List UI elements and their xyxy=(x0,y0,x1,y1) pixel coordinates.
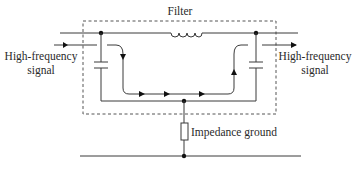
current-arrow-right-icon xyxy=(164,91,170,97)
input-signal-label-line2: signal xyxy=(27,64,54,77)
input-signal-label-line1: High-frequency xyxy=(5,50,78,63)
input-signal-arrow xyxy=(54,42,97,48)
top-conductor xyxy=(60,33,298,37)
filter-title: Filter xyxy=(168,5,193,17)
current-arrow-up-icon xyxy=(231,69,237,75)
impedance-ground-label: Impedance ground xyxy=(191,126,277,139)
input-capacitor-icon xyxy=(94,33,108,101)
current-path xyxy=(107,45,248,97)
output-capacitor-icon xyxy=(249,33,263,101)
impedance-resistor-icon xyxy=(181,101,188,156)
filter-circuit-diagram: Filter xyxy=(0,0,358,171)
output-signal-arrow xyxy=(262,42,297,48)
current-arrow-down-icon xyxy=(120,54,126,60)
inductor-icon xyxy=(171,33,202,37)
current-arrow-right-icon xyxy=(139,91,145,97)
ground-node xyxy=(182,154,186,158)
current-arrow-right-icon xyxy=(199,91,205,97)
output-signal-label-line2: signal xyxy=(301,64,328,77)
output-signal-label-line1: High-frequency xyxy=(279,50,352,63)
